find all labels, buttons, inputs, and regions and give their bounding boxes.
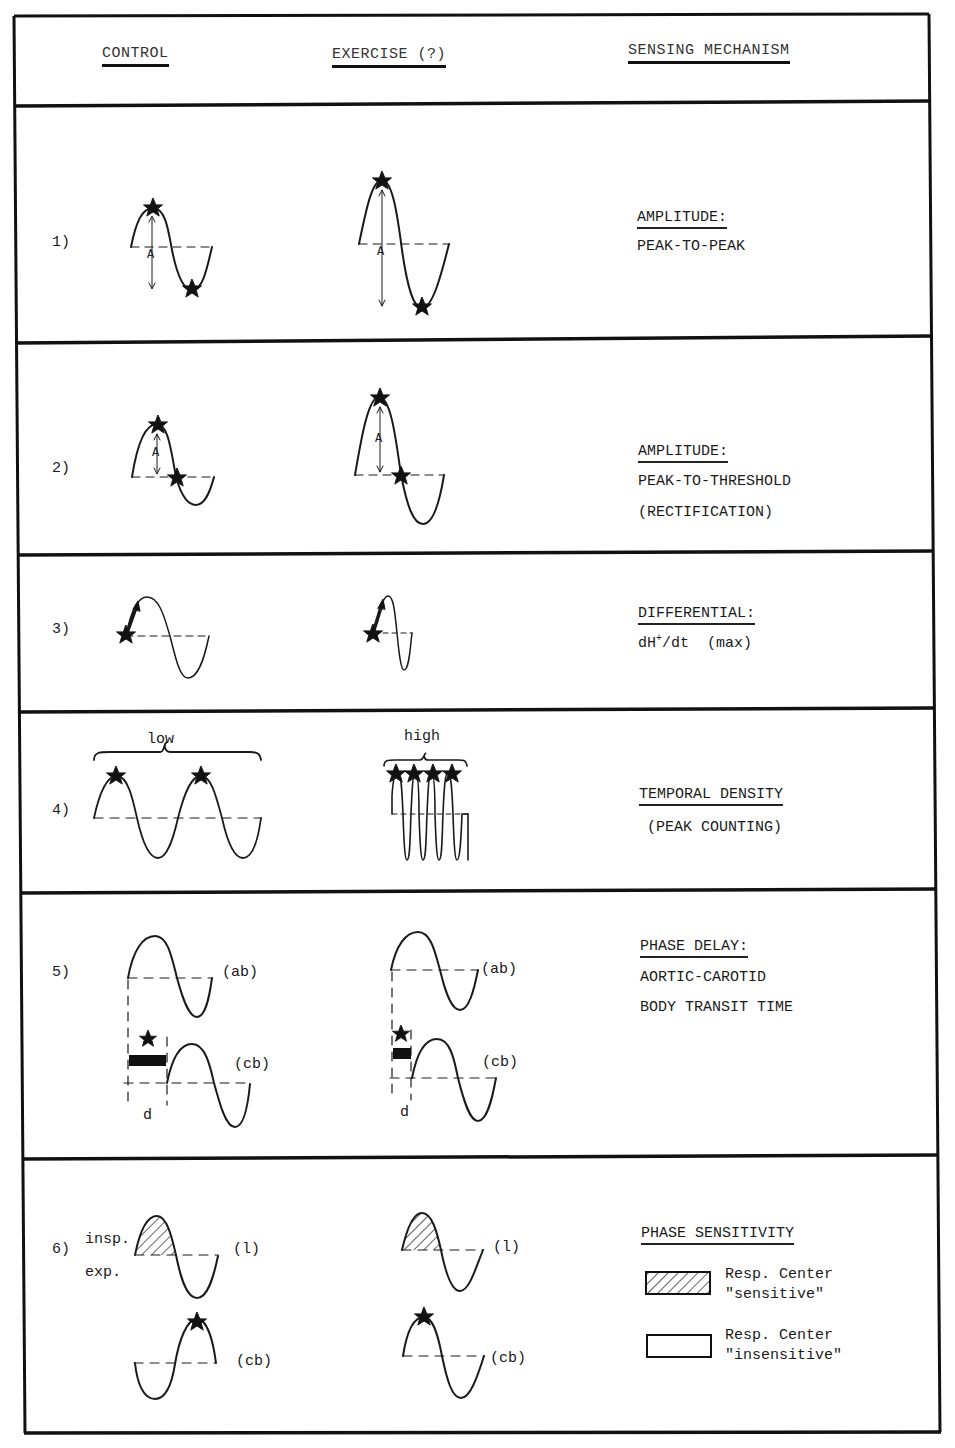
mechanism-detail: PEAK-TO-THRESHOLD	[638, 473, 791, 490]
row3-exercise-wave	[364, 596, 413, 670]
diagram-canvas	[0, 0, 955, 1448]
wave-label-cb: (cb)	[236, 1353, 272, 1370]
amplitude-label: A	[377, 245, 384, 259]
frequency-label-high: high	[404, 728, 440, 745]
row4-exercise-wave	[384, 753, 468, 860]
row1-exercise-wave	[359, 171, 449, 315]
mechanism-detail: (RECTIFICATION)	[638, 504, 773, 521]
mechanism-detail: PEAK-TO-PEAK	[637, 238, 745, 255]
mechanism-title: PHASE SENSITIVITY	[641, 1225, 794, 1245]
row3-control-wave	[117, 597, 210, 678]
mechanism-title: DIFFERENTIAL:	[638, 605, 755, 625]
legend-sensitive-line2: "sensitive"	[725, 1286, 824, 1303]
mechanism-title: AMPLITUDE:	[638, 443, 728, 463]
legend-sensitive-line1: Resp. Center	[725, 1266, 833, 1283]
column-header-exercise: EXERCISE (?)	[332, 46, 446, 68]
row6-exercise-wave	[402, 1213, 484, 1398]
mechanism-detail: (PEAK COUNTING)	[647, 819, 782, 836]
mechanism-title: AMPLITUDE:	[637, 209, 727, 229]
column-header-control: CONTROL	[102, 45, 169, 67]
delay-label: d	[143, 1107, 152, 1124]
mechanism-title: TEMPORAL DENSITY	[639, 786, 783, 806]
row-number: 3)	[52, 621, 70, 638]
mechanism-detail: BODY TRANSIT TIME	[640, 999, 793, 1016]
row6-control-wave	[134, 1216, 218, 1399]
legend-insensitive-line1: Resp. Center	[725, 1327, 833, 1344]
mechanism-formula: dH+/dt (max)	[638, 633, 752, 652]
legend-insensitive-line2: "insensitive"	[725, 1347, 842, 1364]
wave-label-ab: (ab)	[481, 961, 517, 978]
legend-hatched-swatch	[646, 1272, 710, 1294]
wave-label-cb: (cb)	[482, 1054, 518, 1071]
row2-control-wave	[132, 415, 214, 505]
exp-label: exp.	[85, 1264, 121, 1281]
legend-empty-swatch	[647, 1335, 711, 1357]
mechanism-title: PHASE DELAY:	[640, 938, 748, 958]
row4-control-wave	[94, 742, 261, 858]
frequency-label-low: low	[147, 731, 174, 748]
row-number: 4)	[52, 802, 70, 819]
wave-label-ab: (ab)	[222, 964, 258, 981]
wave-label-cb: (cb)	[490, 1350, 526, 1367]
mechanism-detail: AORTIC-CAROTID	[640, 969, 766, 986]
wave-label-cb: (cb)	[234, 1056, 270, 1073]
column-header-mechanism: SENSING MECHANISM	[628, 42, 790, 64]
insp-label: insp.	[85, 1231, 130, 1248]
row-number: 1)	[52, 234, 70, 251]
delay-label: d	[400, 1104, 409, 1121]
row-number: 5)	[52, 964, 70, 981]
wave-label-l: (l)	[493, 1239, 520, 1256]
amplitude-label: A	[152, 446, 159, 460]
wave-label-l: (l)	[233, 1241, 260, 1258]
row-number: 2)	[52, 460, 70, 477]
row1-control-wave	[131, 198, 212, 297]
row-number: 6)	[52, 1241, 70, 1258]
row2-exercise-wave	[355, 388, 444, 524]
amplitude-label: A	[375, 432, 382, 446]
amplitude-label: A	[147, 248, 154, 262]
